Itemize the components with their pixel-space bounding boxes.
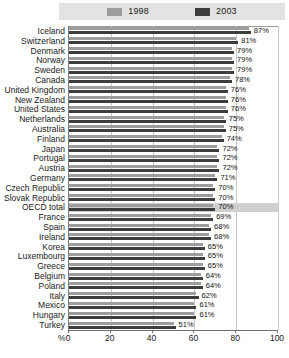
bar-1998 — [69, 312, 194, 315]
chart-row: Iceland87% — [69, 26, 278, 36]
x-axis: 020406080100 — [68, 330, 277, 346]
chart-row: Czech Republic70% — [69, 183, 278, 193]
category-label: United Kingdom — [5, 85, 65, 94]
bar-2003 — [69, 149, 219, 152]
chart-row: Austria72% — [69, 163, 278, 173]
bar-group — [69, 224, 278, 231]
chart-row: Italy62% — [69, 291, 278, 301]
bar-1998 — [69, 165, 217, 168]
value-label: 70% — [218, 184, 233, 192]
bar-group — [69, 96, 278, 103]
chart-row: Greece65% — [69, 261, 278, 271]
category-label: Belgium — [34, 272, 65, 281]
legend-label-2003: 2003 — [216, 7, 237, 16]
bar-2003 — [69, 296, 199, 299]
bar-1998 — [69, 322, 174, 325]
value-label: 76% — [231, 105, 246, 113]
bar-1998 — [69, 155, 217, 158]
category-label: United States — [14, 105, 65, 114]
chart-row: Hungary61% — [69, 310, 278, 320]
value-label: 70% — [218, 203, 233, 211]
chart-row: Belgium64% — [69, 271, 278, 281]
bar-group — [69, 174, 278, 181]
chart-row: Germany71% — [69, 173, 278, 183]
chart-row: Ireland68% — [69, 232, 278, 242]
value-label: 72% — [222, 154, 237, 162]
chart-rows: Iceland87%Switzerland81%Denmark79%Norway… — [69, 26, 278, 330]
category-label: Slovak Republic — [4, 193, 65, 202]
bar-1998 — [69, 145, 217, 148]
bar-1998 — [69, 273, 201, 276]
bar-chart: 1998 2003 Iceland87%Switzerland81%Denmar… — [0, 0, 289, 358]
value-label: 87% — [254, 27, 269, 35]
value-label: 81% — [241, 37, 256, 45]
bar-1998 — [69, 67, 232, 70]
category-label: France — [39, 213, 65, 222]
value-label: 61% — [199, 301, 214, 309]
value-label: 79% — [237, 66, 252, 74]
bar-1998 — [69, 125, 224, 128]
category-label: Poland — [39, 281, 65, 290]
category-label: Spain — [43, 223, 65, 232]
x-axis-tick-label: 20 — [105, 334, 114, 343]
value-label: 51% — [179, 321, 194, 329]
value-label: 71% — [220, 174, 235, 182]
bar-2003 — [69, 80, 232, 83]
bar-1998 — [69, 243, 203, 246]
value-label: 75% — [229, 115, 244, 123]
category-label: Luxembourg — [18, 252, 65, 261]
category-label: New Zealand — [15, 95, 65, 104]
value-label: 72% — [222, 164, 237, 172]
bar-group — [69, 184, 278, 191]
category-label: Greece — [37, 262, 65, 271]
category-label: Japan — [42, 144, 65, 153]
chart-row: Portugal72% — [69, 153, 278, 163]
bar-2003 — [69, 316, 196, 319]
chart-row: United Kingdom76% — [69, 85, 278, 95]
chart-row: Mexico61% — [69, 301, 278, 311]
chart-row: Luxembourg65% — [69, 252, 278, 262]
category-label: Portugal — [33, 154, 65, 163]
bar-2003 — [69, 139, 224, 142]
bar-1998 — [69, 253, 203, 256]
category-label: Canada — [35, 75, 65, 84]
value-label: 74% — [227, 135, 242, 143]
x-axis-line — [68, 330, 277, 331]
category-label: Switzerland — [21, 36, 65, 45]
value-label: 78% — [235, 76, 250, 84]
bar-2003 — [69, 198, 215, 201]
chart-row: Japan72% — [69, 144, 278, 154]
bar-1998 — [69, 184, 213, 187]
chart-row: Canada78% — [69, 75, 278, 85]
category-label: Sweden — [34, 66, 65, 75]
chart-row: Australia75% — [69, 124, 278, 134]
legend-item-2003: 2003 — [195, 7, 237, 16]
bar-2003 — [69, 120, 226, 123]
category-label: Hungary — [33, 311, 65, 320]
bar-2003 — [69, 228, 211, 231]
bar-1998 — [69, 96, 226, 99]
bar-1998 — [69, 174, 215, 177]
bar-1998 — [69, 106, 226, 109]
bar-1998 — [69, 224, 209, 227]
bar-2003 — [69, 41, 238, 44]
bar-group — [69, 155, 278, 162]
plot-area: Iceland87%Switzerland81%Denmark79%Norway… — [68, 26, 278, 330]
chart-row: Switzerland81% — [69, 36, 278, 46]
bar-1998 — [69, 233, 209, 236]
value-label: 68% — [214, 233, 229, 241]
category-label: Czech Republic — [5, 183, 65, 192]
value-label: 61% — [199, 311, 214, 319]
bar-group — [69, 292, 278, 299]
bar-2003 — [69, 267, 205, 270]
x-axis-tick-label: 100 — [270, 334, 284, 343]
bar-group — [69, 125, 278, 132]
bar-2003 — [69, 218, 213, 221]
chart-row: Korea65% — [69, 242, 278, 252]
bar-1998 — [69, 116, 224, 119]
bar-group — [69, 263, 278, 270]
bar-1998 — [69, 47, 232, 50]
bar-group — [69, 116, 278, 123]
category-label: Norway — [36, 56, 65, 65]
bar-2003 — [69, 31, 251, 34]
